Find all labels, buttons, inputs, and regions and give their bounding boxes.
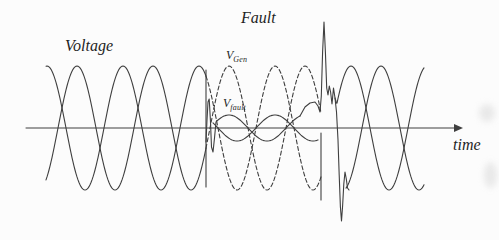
fault-clear-recovery <box>335 98 349 221</box>
fault-voltage-diagram: Voltage Fault VGen Vfault time <box>0 0 499 240</box>
scan-artifact <box>479 104 495 122</box>
v-gen-label-subscript: Gen <box>233 55 247 64</box>
fault-onset-transient <box>206 99 217 152</box>
time-axis-arrowhead <box>454 124 463 132</box>
waveform-plot <box>0 0 499 240</box>
voltage-label: Voltage <box>65 38 113 54</box>
scan-artifact <box>484 162 497 188</box>
v-fault-label-subscript: fault <box>230 103 246 112</box>
fault-label: Fault <box>241 10 276 26</box>
v-gen-label: VGen <box>226 49 247 61</box>
v-fault-label: Vfault <box>223 97 246 109</box>
time-axis-label: time <box>453 137 481 153</box>
